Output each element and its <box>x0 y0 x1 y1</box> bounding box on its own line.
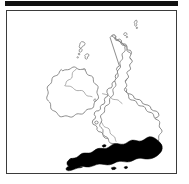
orkney <box>124 33 128 38</box>
highlight-label: Southern England <box>0 0 1 1</box>
isle-of-wight <box>124 166 127 168</box>
anglesey <box>95 121 98 124</box>
shetland <box>134 20 137 29</box>
top-rule-divider <box>5 1 178 6</box>
map-caption <box>0 0 1 1</box>
skye <box>85 54 89 60</box>
map-alt-text: Outline map of the British Isles with so… <box>0 0 1 1</box>
ireland-coastline <box>47 67 99 117</box>
british-isles-map[interactable] <box>7 11 176 173</box>
map-figure: Outline map of the British Isles with so… <box>0 0 189 184</box>
map-frame[interactable] <box>6 10 177 174</box>
outer-hebrides <box>77 42 85 59</box>
figure-subject: British Isles <box>0 0 1 1</box>
isle-of-man <box>94 99 96 102</box>
